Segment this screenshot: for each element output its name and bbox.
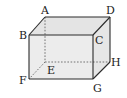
vertex-label-F: F	[19, 74, 27, 87]
vertex-label-E: E	[47, 64, 55, 77]
vertex-label-H: H	[111, 56, 121, 69]
front-face	[29, 35, 93, 79]
vertex-label-A: A	[40, 4, 50, 17]
cuboid-diagram: A B C D E F G H	[0, 0, 127, 98]
vertex-label-B: B	[19, 29, 27, 42]
vertex-label-C: C	[95, 34, 103, 47]
vertex-label-D: D	[106, 4, 115, 17]
vertex-label-G: G	[93, 82, 102, 95]
